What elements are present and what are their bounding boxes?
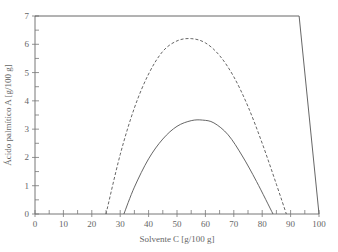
y-tick-label: 3 (25, 124, 30, 134)
y-tick-label: 1 (25, 181, 30, 191)
axes: 010203040506070809010001234567 (25, 11, 327, 229)
x-tick-label: 30 (116, 219, 126, 229)
x-tick-label: 60 (201, 219, 211, 229)
x-tick-label: 20 (87, 219, 97, 229)
y-tick-label: 0 (25, 209, 30, 219)
x-tick-label: 70 (229, 219, 239, 229)
x-tick-label: 40 (144, 219, 154, 229)
x-tick-label: 50 (173, 219, 183, 229)
y-tick-label: 2 (25, 152, 30, 162)
x-tick-label: 100 (312, 219, 326, 229)
x-tick-label: 90 (286, 219, 296, 229)
x-tick-label: 0 (33, 219, 38, 229)
series-layer (35, 16, 319, 214)
x-axis-title: Solvente C [g/100 g] (139, 234, 214, 244)
y-axis-title: Ácido palmítico A [g/100 g] (3, 64, 13, 166)
y-tick-label: 5 (25, 68, 30, 78)
x-tick-label: 10 (59, 219, 69, 229)
y-tick-label: 7 (25, 11, 30, 21)
y-tick-label: 6 (25, 39, 30, 49)
x-tick-label: 80 (258, 219, 268, 229)
series-solid-curve (124, 120, 273, 214)
chart: 010203040506070809010001234567 Solvente … (0, 0, 338, 252)
y-tick-label: 4 (25, 96, 30, 106)
